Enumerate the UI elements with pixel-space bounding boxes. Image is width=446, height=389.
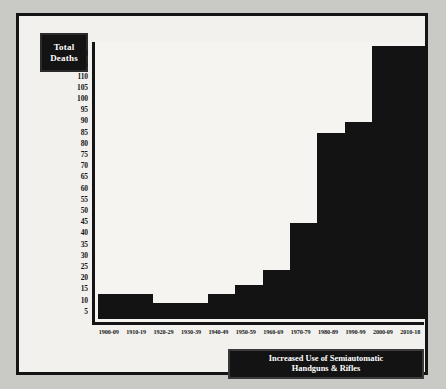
chart-frame: Total Deaths 510152025303540455055606570…: [16, 13, 428, 375]
y-axis-tick-labels: 5101520253035404550556065707580859095100…: [55, 42, 88, 325]
annotation-line2: Handguns & Rifles: [292, 364, 360, 374]
x-axis-tick-1940-49: 1940-49: [208, 328, 228, 335]
y-axis-tick-60: 60: [81, 183, 88, 192]
bar-1990-99: [345, 122, 373, 319]
bar-1960-69: [263, 270, 291, 319]
x-axis-tick-2010-18: 2010-18: [400, 328, 420, 335]
y-axis-tick-120: 120: [77, 49, 88, 58]
bar-1980-89: [317, 133, 345, 319]
y-axis-tick-35: 35: [81, 239, 88, 248]
x-axis-tick-1920-29: 1920-29: [154, 328, 174, 335]
y-axis-tick-25: 25: [81, 262, 88, 271]
y-axis-tick-45: 45: [81, 217, 88, 226]
x-axis-tick-labels: 1900-091910-191920-291930-391940-491950-…: [92, 328, 424, 340]
y-axis-tick-95: 95: [81, 105, 88, 114]
y-axis-tick-15: 15: [81, 284, 88, 293]
annotation-callout: Increased Use of Semiautomatic Handguns …: [228, 349, 424, 379]
y-axis-tick-85: 85: [81, 127, 88, 136]
bar-2010-18: [400, 46, 428, 319]
x-axis-tick-1910-19: 1910-19: [126, 328, 146, 335]
x-axis-tick-2000-09: 2000-09: [373, 328, 393, 335]
x-axis-tick-1950-59: 1950-59: [236, 328, 256, 335]
x-axis-tick-1990-99: 1990-99: [345, 328, 365, 335]
bar-1910-19: [125, 294, 153, 319]
bar-2000-09: [372, 46, 400, 319]
y-axis-tick-65: 65: [81, 172, 88, 181]
y-axis-tick-40: 40: [81, 228, 88, 237]
y-axis-tick-30: 30: [81, 250, 88, 259]
bar-1900-09: [98, 294, 126, 319]
y-axis-tick-90: 90: [81, 116, 88, 125]
chart-page: Total Deaths 510152025303540455055606570…: [0, 0, 446, 389]
y-axis-tick-75: 75: [81, 150, 88, 159]
x-axis-tick-1900-09: 1900-09: [99, 328, 119, 335]
x-axis-tick-1930-39: 1930-39: [181, 328, 201, 335]
y-axis-tick-70: 70: [81, 161, 88, 170]
y-axis-tick-5: 5: [84, 306, 88, 315]
x-axis-tick-1960-69: 1960-69: [263, 328, 283, 335]
y-axis-tick-80: 80: [81, 138, 88, 147]
bar-series: [98, 42, 424, 319]
bar-1950-59: [235, 285, 263, 319]
annotation-line1: Increased Use of Semiautomatic: [269, 354, 384, 364]
x-axis-tick-1970-79: 1970-79: [291, 328, 311, 335]
bar-1970-79: [290, 223, 318, 319]
y-axis-tick-50: 50: [81, 206, 88, 215]
y-axis-tick-100: 100: [77, 94, 88, 103]
y-axis-tick-10: 10: [81, 295, 88, 304]
y-axis-tick-105: 105: [77, 82, 88, 91]
bar-1920-29: [153, 303, 181, 319]
x-axis-tick-1980-89: 1980-89: [318, 328, 338, 335]
y-axis-tick-110: 110: [77, 71, 88, 80]
bar-1940-49: [208, 294, 236, 319]
y-axis-tick-55: 55: [81, 194, 88, 203]
y-axis-tick-20: 20: [81, 273, 88, 282]
y-axis-tick-115: 115: [77, 60, 88, 69]
plot-area: [92, 42, 424, 325]
bar-1930-39: [180, 303, 208, 319]
